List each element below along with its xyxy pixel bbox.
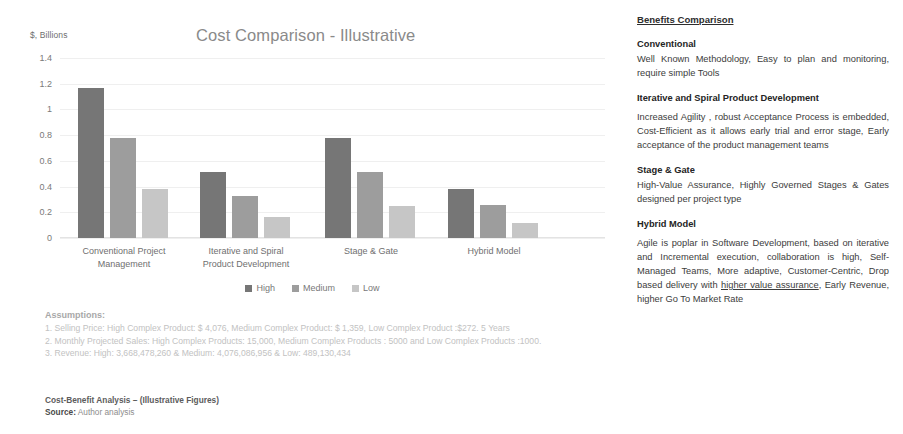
assumptions-lines: 1. Selling Price: High Complex Product: … xyxy=(45,323,623,360)
legend-swatch-icon xyxy=(245,285,252,292)
bars xyxy=(78,58,170,238)
benefit-block: Hybrid ModelAgile is poplar in Software … xyxy=(637,219,889,306)
benefit-body-emphasis: higher value assurance xyxy=(721,280,819,290)
bar-high[interactable] xyxy=(448,189,474,239)
benefits-heading: Benefits Comparison xyxy=(637,14,889,25)
bar-group: Conventional ProjectManagement xyxy=(78,58,170,238)
plot-area: 00.20.40.60.811.21.4 Conventional Projec… xyxy=(60,58,605,238)
assumption-line: 1. Selling Price: High Complex Product: … xyxy=(45,323,623,335)
bar-low[interactable] xyxy=(264,217,290,238)
y-axis-tick-label: 0 xyxy=(47,233,52,243)
y-axis-tick-label: 0.4 xyxy=(39,182,52,192)
caption-source-value: Author analysis xyxy=(78,407,135,417)
chart-title: Cost Comparison - Illustrative xyxy=(196,26,415,45)
y-axis-tick-label: 0.2 xyxy=(39,207,52,217)
benefit-body: Increased Agility , robust Acceptance Pr… xyxy=(637,110,889,152)
assumption-line: 2. Monthly Projected Sales: High Complex… xyxy=(45,336,623,348)
legend-item-low[interactable]: Low xyxy=(352,283,380,293)
bar-medium[interactable] xyxy=(232,196,258,238)
benefit-title: Hybrid Model xyxy=(637,219,889,229)
caption-title: Cost-Benefit Analysis – (Illustrative Fi… xyxy=(45,395,445,405)
y-axis-tick-label: 0.8 xyxy=(39,130,52,140)
benefit-block: Stage & GateHigh-Value Assurance, Highly… xyxy=(637,165,889,206)
benefit-title: Conventional xyxy=(637,39,889,49)
y-axis-tick-label: 1 xyxy=(47,104,52,114)
gridline xyxy=(60,238,605,239)
y-axis-unit-label: $, Billions xyxy=(30,30,67,40)
legend-swatch-icon xyxy=(292,285,299,292)
benefit-body: High-Value Assurance, Highly Governed St… xyxy=(637,178,889,206)
bar-high[interactable] xyxy=(325,138,351,238)
legend-item-high[interactable]: High xyxy=(245,283,275,293)
bars xyxy=(448,58,540,238)
bar-high[interactable] xyxy=(200,172,226,238)
benefit-body: Agile is poplar in Software Development,… xyxy=(637,236,889,306)
benefit-title: Stage & Gate xyxy=(637,165,889,175)
bar-low[interactable] xyxy=(512,223,538,238)
slide-canvas: $, Billions Cost Comparison - Illustrati… xyxy=(0,0,903,434)
benefit-block: Iterative and Spiral Product Development… xyxy=(637,93,889,152)
bars xyxy=(325,58,417,238)
figure-caption: Cost-Benefit Analysis – (Illustrative Fi… xyxy=(45,395,445,417)
bar-group: Stage & Gate xyxy=(325,58,417,238)
bar-high[interactable] xyxy=(78,88,104,238)
caption-source-label: Source: xyxy=(45,407,76,417)
benefits-blocks: ConventionalWell Known Methodology, Easy… xyxy=(637,39,889,306)
caption-source: Source: Author analysis xyxy=(45,407,445,417)
assumptions-block: Assumptions: 1. Selling Price: High Comp… xyxy=(45,310,623,361)
legend-swatch-icon xyxy=(352,285,359,292)
y-axis-tick-label: 1.2 xyxy=(39,79,52,89)
benefit-body: Well Known Methodology, Easy to plan and… xyxy=(637,52,889,80)
benefit-title: Iterative and Spiral Product Development xyxy=(637,93,889,103)
bars xyxy=(200,58,292,238)
bar-medium[interactable] xyxy=(110,138,136,238)
y-axis-tick-label: 1.4 xyxy=(39,53,52,63)
bar-group: Iterative and SpiralProduct Development xyxy=(200,58,292,238)
x-axis-category-line: Product Development xyxy=(171,258,321,271)
legend-item-medium[interactable]: Medium xyxy=(292,283,335,293)
chart-panel: $, Billions Cost Comparison - Illustrati… xyxy=(0,0,625,434)
benefit-block: ConventionalWell Known Methodology, Easy… xyxy=(637,39,889,80)
legend-label: High xyxy=(256,283,275,293)
legend-label: Low xyxy=(363,283,380,293)
chart-legend: HighMediumLow xyxy=(0,283,625,293)
x-axis-category-line: Hybrid Model xyxy=(419,245,569,258)
bar-group: Hybrid Model xyxy=(448,58,540,238)
bar-medium[interactable] xyxy=(480,205,506,238)
bar-medium[interactable] xyxy=(357,172,383,238)
x-axis-category-label: Hybrid Model xyxy=(419,245,569,258)
bar-low[interactable] xyxy=(389,206,415,238)
legend-label: Medium xyxy=(303,283,335,293)
assumption-line: 3. Revenue: High: 3,668,478,260 & Medium… xyxy=(45,348,623,360)
y-axis-tick-label: 0.6 xyxy=(39,156,52,166)
bar-low[interactable] xyxy=(142,189,168,239)
assumptions-title: Assumptions: xyxy=(45,310,623,320)
benefits-panel: Benefits Comparison ConventionalWell Kno… xyxy=(637,14,889,319)
